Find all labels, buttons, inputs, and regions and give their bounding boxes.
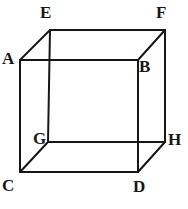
vertex-label-h: H: [168, 131, 181, 148]
vertex-label-b: B: [139, 58, 150, 75]
vertex-label-c: C: [2, 177, 14, 194]
vertex-label-d: D: [133, 178, 145, 195]
cube-wireframe-svg: [0, 0, 188, 209]
cube-edge-group: [20, 30, 165, 172]
edge-B-F: [138, 30, 165, 60]
vertex-label-a: A: [2, 50, 14, 67]
vertex-label-g: G: [33, 130, 46, 147]
vertex-label-f: F: [156, 4, 166, 21]
vertex-label-e: E: [40, 4, 51, 21]
edge-A-E: [20, 30, 50, 60]
cube-diagram-figure: E F A B G H C D: [0, 0, 188, 209]
edge-D-H: [138, 142, 165, 172]
edge-G-E: [48, 30, 50, 142]
